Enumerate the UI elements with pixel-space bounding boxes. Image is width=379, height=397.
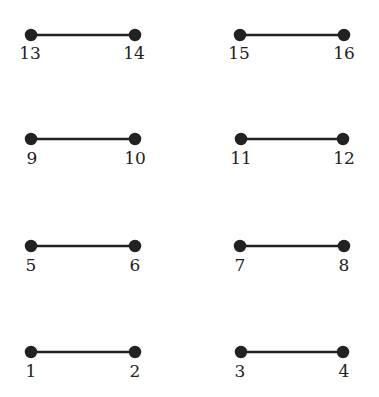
node-label-10: 10: [124, 150, 146, 167]
edge-5-6: [26, 241, 140, 251]
diagram-canvas: [0, 0, 379, 397]
node-label-1: 1: [26, 363, 37, 380]
node-label-11: 11: [230, 150, 252, 167]
node-label-2: 2: [130, 363, 141, 380]
edge-15-16: [235, 30, 349, 40]
edge-9-10: [26, 134, 140, 144]
node-label-16: 16: [333, 45, 355, 62]
node-label-6: 6: [130, 257, 141, 274]
node-label-4: 4: [339, 363, 350, 380]
node-label-7: 7: [235, 257, 246, 274]
edge-3-4: [236, 347, 348, 357]
edge-11-12: [236, 134, 348, 144]
node-label-8: 8: [339, 257, 350, 274]
node-label-12: 12: [333, 150, 355, 167]
node-label-14: 14: [123, 45, 145, 62]
edge-1-2: [26, 347, 140, 357]
node-label-9: 9: [27, 150, 38, 167]
node-label-15: 15: [228, 45, 250, 62]
node-label-3: 3: [235, 363, 246, 380]
edge-7-8: [235, 241, 349, 251]
edge-13-14: [26, 30, 140, 40]
node-label-5: 5: [26, 257, 37, 274]
node-label-13: 13: [19, 45, 41, 62]
